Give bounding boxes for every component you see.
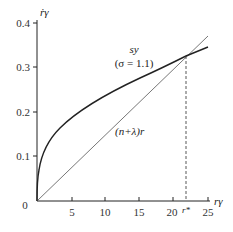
x-ticks xyxy=(72,197,208,201)
y-tick-0.1: 0.1 xyxy=(16,150,30,162)
y-axis-title: ṙγ xyxy=(40,6,49,18)
rstar-label: r* xyxy=(182,205,191,215)
x-tick-20: 20 xyxy=(167,206,179,218)
origin-label: 0 xyxy=(22,199,28,211)
x-tick-25: 25 xyxy=(203,206,215,218)
line-label: (n+λ)r xyxy=(115,125,145,138)
curve-label-sigma: (σ = 1.1) xyxy=(115,57,154,70)
curve-label-sy: sy xyxy=(129,43,138,55)
steady-state-chart: 0.4 0.3 0.2 0.1 0 5 10 15 20 25 ṙγ rγ sy… xyxy=(0,0,233,232)
x-axis-title: rγ xyxy=(214,195,223,207)
y-tick-0.2: 0.2 xyxy=(16,106,30,118)
curve-sy xyxy=(37,47,208,201)
x-tick-5: 5 xyxy=(69,206,75,218)
y-tick-0.3: 0.3 xyxy=(16,61,30,73)
y-tick-0.4: 0.4 xyxy=(16,17,30,29)
y-ticks xyxy=(33,23,37,156)
x-tick-10: 10 xyxy=(100,206,112,218)
x-tick-15: 15 xyxy=(134,206,146,218)
